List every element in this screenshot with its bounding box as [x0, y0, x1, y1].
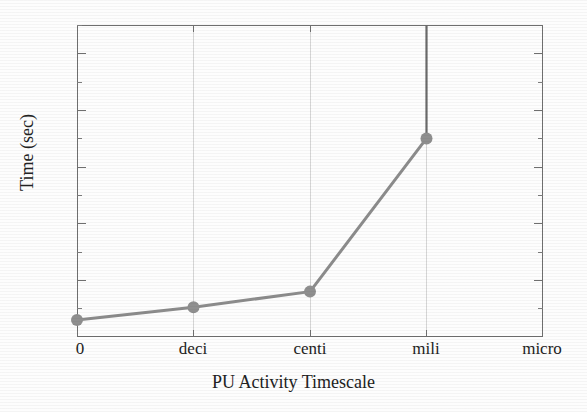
- y-tick-minor-13: [77, 82, 82, 83]
- x-tick-micro: [542, 330, 543, 337]
- y-tick-right-12: [534, 110, 543, 111]
- x-tick-0: [77, 330, 78, 337]
- y-tick-right-minor-5: [538, 308, 543, 309]
- y-tick-12: [77, 110, 86, 111]
- x-axis-title: PU Activity Timescale: [0, 372, 587, 393]
- x-tick-mili: [426, 330, 427, 337]
- y-tick-right-minor-11: [538, 138, 543, 139]
- y-tick-right-6: [534, 280, 543, 281]
- x-tick-centi: [310, 330, 311, 337]
- y-tick-minor-7: [77, 252, 82, 253]
- y-tick-minor-15: [77, 25, 82, 26]
- x-tick-label-micro: micro: [522, 339, 562, 359]
- x-tick-label-centi: centi: [293, 339, 326, 359]
- x-tick-label-deci: deci: [179, 339, 207, 359]
- y-tick-minor-9: [77, 195, 82, 196]
- y-tick-14: [77, 53, 86, 54]
- y-tick-10: [77, 167, 86, 168]
- plot-frame: [77, 25, 543, 337]
- y-tick-right-8: [534, 223, 543, 224]
- y-tick-6: [77, 280, 86, 281]
- y-tick-minor-5: [77, 308, 82, 309]
- x-tick-top-mili: [426, 25, 427, 32]
- y-tick-right-minor-9: [538, 195, 543, 196]
- y-tick-right-minor-13: [538, 82, 543, 83]
- x-tick-top-centi: [310, 25, 311, 32]
- y-tick-minor-11: [77, 138, 82, 139]
- x-tick-label-mili: mili: [412, 339, 439, 359]
- y-tick-right-minor-7: [538, 252, 543, 253]
- x-tick-deci: [193, 330, 194, 337]
- y-tick-right-10: [534, 167, 543, 168]
- x-tick-label-0: 0: [76, 339, 85, 359]
- y-axis-title: Time (sec): [17, 63, 38, 243]
- chart-figure: 14 12 10 8 6 4 0 deci centi mili micro T…: [0, 0, 587, 412]
- y-tick-right-14: [534, 53, 543, 54]
- x-tick-top-deci: [193, 25, 194, 32]
- y-tick-8: [77, 223, 86, 224]
